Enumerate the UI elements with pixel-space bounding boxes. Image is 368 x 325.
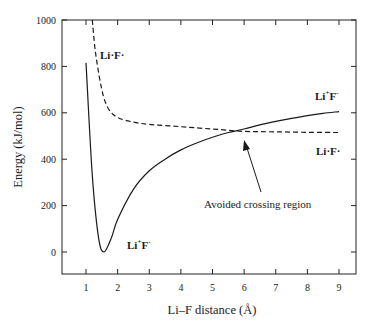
label-ionic-right: Li+F- [315, 89, 339, 102]
label-ionic-minimum: Li+F- [127, 238, 151, 251]
y-tick-label: 800 [41, 61, 56, 72]
x-tick-label: 1 [84, 282, 89, 293]
y-tick-label: 400 [41, 154, 56, 165]
label-covalent-top-left: Li·F· [100, 49, 124, 61]
x-tick-label: 9 [337, 282, 342, 293]
y-tick-label: 1000 [36, 15, 56, 26]
avoided-crossing-arrowhead-icon [243, 140, 250, 151]
avoided-crossing-arrow-line [246, 145, 261, 192]
x-tick-label: 5 [210, 282, 215, 293]
label-covalent-right: Li·F· [316, 145, 340, 157]
y-tick-label: 600 [41, 107, 56, 118]
energy-curve-chart: 02004006008001000 123456789 Energy (kJ/m… [0, 0, 368, 325]
x-tick-label: 2 [115, 282, 120, 293]
y-tick-label: 0 [51, 247, 56, 258]
covalent-curve-dashed [92, 20, 339, 133]
x-tick-label: 6 [242, 282, 247, 293]
y-axis-ticks: 02004006008001000 [36, 15, 356, 258]
x-tick-label: 7 [273, 282, 278, 293]
y-tick-label: 200 [41, 200, 56, 211]
x-tick-label: 4 [178, 282, 183, 293]
avoided-crossing-label: Avoided crossing region [204, 198, 312, 210]
x-axis-title: Li–F distance (Å) [168, 303, 257, 317]
x-tick-label: 3 [147, 282, 152, 293]
y-axis-title: Energy (kJ/mol) [11, 106, 25, 187]
x-tick-label: 8 [305, 282, 310, 293]
ionic-curve-solid [86, 63, 339, 252]
